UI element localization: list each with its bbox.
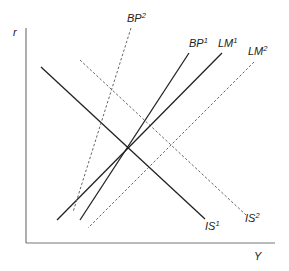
label-is1: IS1	[205, 219, 220, 232]
curve-lm1	[57, 53, 222, 220]
curve-lm2	[88, 62, 254, 228]
diagram-canvas: r Y BP2BP1LM1LM2IS1IS2	[0, 0, 289, 271]
label-bp1: BP1	[189, 36, 208, 49]
curve-is2	[80, 60, 246, 215]
label-lm2: LM2	[248, 44, 268, 57]
x-axis-label: Y	[254, 250, 262, 262]
curve-is1	[41, 67, 205, 219]
label-lm1: LM1	[218, 36, 237, 49]
y-axis-label: r	[13, 26, 18, 38]
label-bp2: BP2	[127, 11, 147, 24]
curve-bp2	[73, 28, 131, 212]
label-is2: IS2	[245, 211, 260, 224]
